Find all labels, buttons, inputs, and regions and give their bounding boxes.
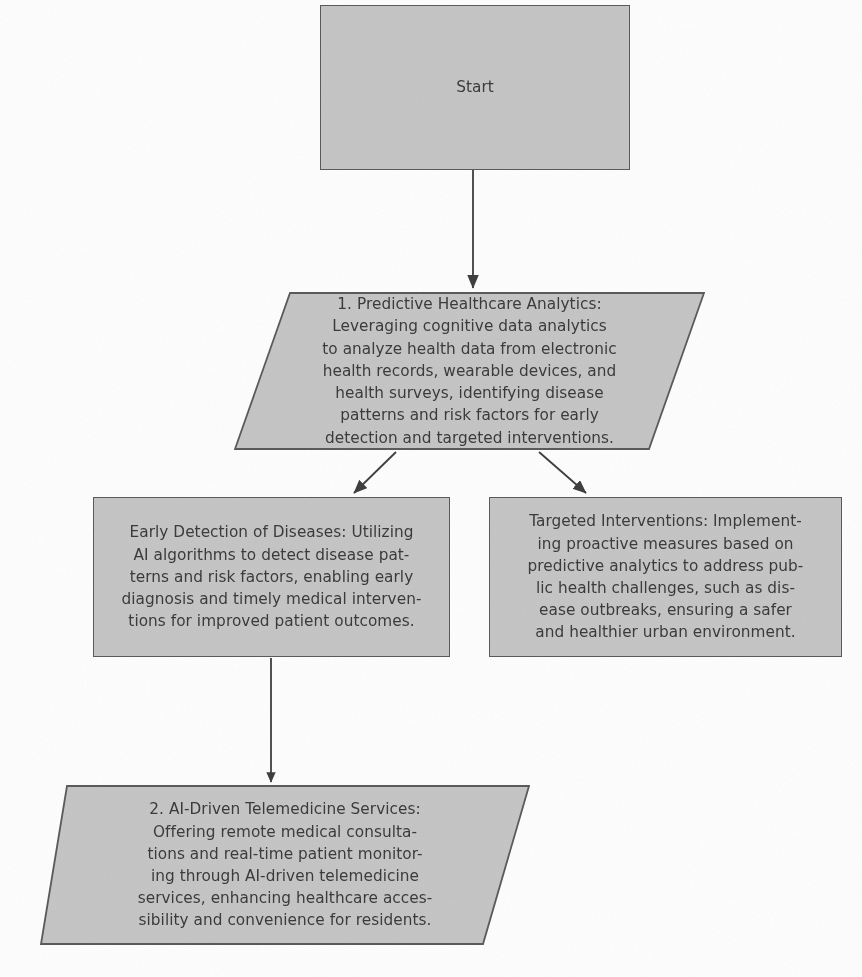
node-early-detection-of-diseases-label: Early Detection of Diseases: Utilizing A… [94,498,449,656]
connector-predictive-to-targeted-interventions [539,452,586,493]
node-start-label: Start [321,6,629,169]
node-ai-driven-telemedicine-services-label: 2. AI-Driven Telemedicine Services: Offe… [40,785,530,945]
node-start[interactable]: Start [320,5,630,170]
flowchart-canvas: Start 1. Predictive Healthcare Analytics… [0,0,862,977]
connector-predictive-to-early-detection [354,452,396,493]
node-early-detection-of-diseases[interactable]: Early Detection of Diseases: Utilizing A… [93,497,450,657]
node-predictive-healthcare-analytics-label: 1. Predictive Healthcare Analytics: Leve… [234,292,705,450]
node-predictive-healthcare-analytics[interactable]: 1. Predictive Healthcare Analytics: Leve… [234,292,705,450]
node-targeted-interventions[interactable]: Targeted Interventions: Implement- ing p… [489,497,842,657]
node-ai-driven-telemedicine-services[interactable]: 2. AI-Driven Telemedicine Services: Offe… [40,785,530,945]
node-targeted-interventions-label: Targeted Interventions: Implement- ing p… [490,498,841,656]
